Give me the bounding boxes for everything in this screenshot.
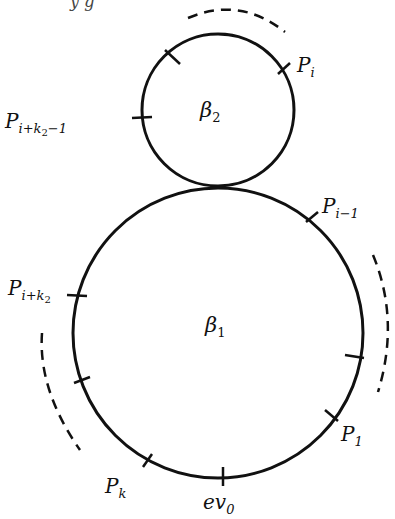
label-beta2: β2 xyxy=(200,100,220,124)
label-P-i-1: Pi−1 xyxy=(322,196,359,220)
dashed-arc-right xyxy=(373,255,388,392)
tick-P-i-k2 xyxy=(67,295,87,296)
tick-small-upper-left xyxy=(165,50,180,64)
label-P-i-k2-1: Pi+k2−1 xyxy=(5,111,67,138)
label-P-1: P1 xyxy=(341,424,363,448)
label-beta1: β1 xyxy=(205,315,225,339)
label-P-i: Pi xyxy=(297,55,315,79)
tick-P-i-k2-1 xyxy=(132,117,152,118)
label-P-i-k2: Pi+k2 xyxy=(8,278,51,305)
dashed-arc-top xyxy=(188,10,285,32)
tick-P-i-1 xyxy=(306,212,318,222)
label-ev-0: ev0 xyxy=(203,492,234,516)
bubble-diagram xyxy=(0,0,395,519)
label-P-k: Pk xyxy=(105,476,126,500)
